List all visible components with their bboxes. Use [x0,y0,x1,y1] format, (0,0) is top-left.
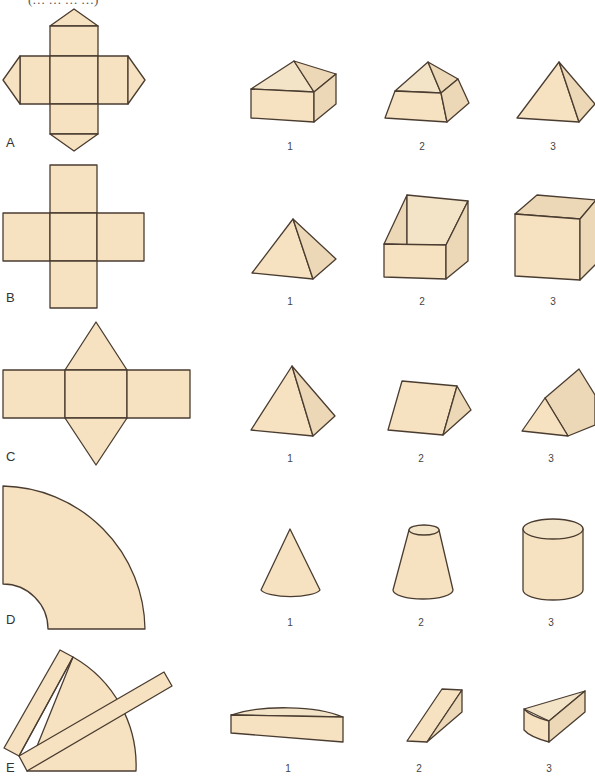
net-b [3,165,144,308]
net-d [3,486,145,629]
row-label-d: D [6,612,15,627]
option-label-c-2: 2 [418,453,424,464]
nets-diagram: (… … … …) A 1 2 [0,0,595,782]
option-d-1[interactable] [261,529,320,597]
row-a: A 1 2 3 [3,9,595,152]
row-b: B 1 2 3 [3,165,595,308]
row-label-b: B [6,290,15,305]
option-c-1[interactable] [251,366,335,436]
header-text: (… … … …) [28,0,98,7]
option-c-2[interactable] [388,381,471,435]
net-a [3,9,145,151]
net-c [3,322,190,465]
option-label-a-1: 1 [287,141,293,152]
option-b-2[interactable] [384,195,468,279]
row-label-a: A [6,135,15,150]
option-label-c-1: 1 [287,453,293,464]
option-label-c-3: 3 [548,453,554,464]
option-label-a-2: 2 [419,141,425,152]
option-label-d-3: 3 [548,617,554,628]
option-d-2[interactable] [393,525,453,599]
option-e-2[interactable] [407,689,462,742]
row-e: E 1 2 3 [4,650,585,775]
net-e [4,650,172,771]
option-label-d-2: 2 [418,617,424,628]
option-a-3[interactable] [517,62,595,122]
option-label-e-3: 3 [546,763,552,774]
option-label-b-3: 3 [550,296,556,307]
option-label-b-2: 2 [419,296,425,307]
option-b-1[interactable] [252,219,336,279]
option-label-e-2: 2 [416,763,422,774]
option-d-3[interactable] [523,519,583,600]
option-e-1[interactable] [231,708,343,742]
option-a-2[interactable] [385,62,469,122]
option-label-d-1: 1 [287,617,293,628]
option-c-3[interactable] [522,369,595,436]
option-label-e-1: 1 [285,763,291,774]
row-d: D 1 2 3 [3,486,583,629]
row-label-c: C [6,449,15,464]
row-c: C 1 2 3 [3,322,595,465]
option-label-a-3: 3 [550,141,556,152]
option-b-3[interactable] [515,195,595,280]
option-a-1[interactable] [251,61,336,122]
row-label-e: E [6,760,15,775]
option-label-b-1: 1 [287,296,293,307]
option-e-3[interactable] [524,691,585,742]
